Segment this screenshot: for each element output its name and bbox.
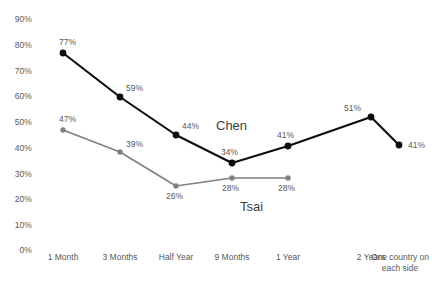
data-point-chen-half-year (173, 132, 180, 139)
data-label-tsai-9-months: 28% (222, 183, 239, 193)
data-label-chen-3-months: 59% (126, 83, 143, 93)
data-label-tsai-3-months: 39% (126, 139, 143, 149)
x-axis-tick-1-year: 1 Year (253, 252, 323, 263)
data-point-chen-1-year (285, 143, 292, 150)
data-label-chen-one-country: 41% (408, 140, 425, 150)
line-chart: 90% 80% 70% 60% 50% 40% 30% 20% 10% 0% 7… (0, 0, 437, 284)
data-point-tsai-half-year (173, 183, 178, 188)
data-label-chen-2-years: 51% (344, 103, 361, 113)
data-point-tsai-1-month (60, 127, 65, 132)
data-point-tsai-3-months (117, 149, 122, 154)
data-point-chen-2-years (368, 114, 375, 121)
data-label-chen-half-year: 44% (182, 121, 199, 131)
series-label-tsai: Tsai (240, 199, 263, 214)
data-point-chen-3-months (117, 94, 124, 101)
x-axis-tick-one-country: One country on each side (364, 252, 436, 274)
series-label-chen: Chen (216, 118, 247, 133)
series-line-tsai (63, 130, 288, 186)
data-point-chen-one-country (396, 142, 403, 149)
data-point-chen-9-months (229, 160, 236, 167)
data-label-chen-9-months: 34% (221, 147, 238, 157)
data-label-tsai-1-year: 28% (278, 183, 295, 193)
data-label-tsai-1-month: 47% (59, 114, 76, 124)
data-label-tsai-half-year: 26% (166, 191, 183, 201)
data-point-chen-1-month (60, 50, 67, 57)
data-label-chen-1-month: 77% (59, 37, 76, 47)
data-label-chen-1-year: 41% (277, 130, 294, 140)
data-point-tsai-9-months (229, 175, 234, 180)
data-point-tsai-1-year (285, 175, 290, 180)
